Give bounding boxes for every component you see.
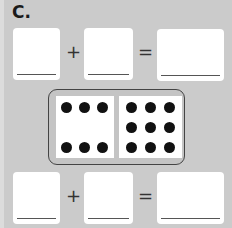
dot	[145, 102, 156, 113]
dot	[145, 122, 156, 133]
dot	[97, 142, 108, 153]
dot	[145, 142, 156, 153]
addend1-box-1[interactable]	[13, 28, 60, 80]
dot	[164, 122, 175, 133]
dot	[61, 102, 72, 113]
addend1-box-2[interactable]	[13, 172, 60, 224]
equals-sign-2: =	[138, 185, 153, 206]
dot	[61, 142, 72, 153]
sum-box-2[interactable]	[157, 172, 224, 224]
dot	[79, 102, 90, 113]
plus-sign-2: +	[66, 185, 81, 206]
dot	[97, 102, 108, 113]
answer-line	[88, 218, 129, 220]
plus-sign-1: +	[66, 41, 81, 62]
problem-label: C.	[12, 2, 31, 22]
answer-line	[161, 75, 220, 77]
answer-line	[161, 218, 220, 220]
dot	[126, 142, 137, 153]
answer-line	[17, 74, 56, 76]
dot	[79, 142, 90, 153]
domino	[48, 89, 185, 165]
dot	[126, 122, 137, 133]
addend2-box-1[interactable]	[84, 28, 133, 80]
equals-sign-1: =	[138, 41, 153, 62]
answer-line	[88, 74, 129, 76]
dot	[164, 142, 175, 153]
page-edge	[0, 0, 4, 228]
addend2-box-2[interactable]	[84, 172, 133, 224]
dot	[164, 102, 175, 113]
answer-line	[17, 218, 56, 220]
sum-box-1[interactable]	[157, 29, 224, 81]
domino-left-half	[56, 96, 114, 158]
dot	[126, 102, 137, 113]
domino-right-half	[119, 96, 182, 158]
